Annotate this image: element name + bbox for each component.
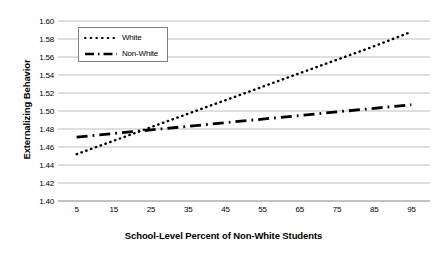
y-tick-label: 1.44 <box>24 161 54 170</box>
x-tick-label: 85 <box>362 205 386 214</box>
x-axis-title: School-Level Percent of Non-White Studen… <box>0 230 447 241</box>
x-tick-label: 35 <box>176 205 200 214</box>
y-tick-label: 1.60 <box>24 17 54 26</box>
legend-swatch-dotted-icon <box>84 33 118 43</box>
x-tick-label: 25 <box>139 205 163 214</box>
y-tick-label: 1.46 <box>24 143 54 152</box>
y-tick-label: 1.50 <box>24 107 54 116</box>
y-tick-label: 1.40 <box>24 197 54 206</box>
y-tick-label: 1.54 <box>24 71 54 80</box>
x-tick-label: 75 <box>325 205 349 214</box>
legend: White Non-White <box>78 27 168 62</box>
y-tick-label: 1.48 <box>24 125 54 134</box>
legend-item-non-white: Non-White <box>79 45 169 62</box>
legend-item-white: White <box>79 29 169 46</box>
x-tick-label: 95 <box>399 205 423 214</box>
legend-label-non-white: Non-White <box>122 49 158 58</box>
x-tick-label: 65 <box>288 205 312 214</box>
series-line-non-white <box>77 105 412 137</box>
y-tick-label: 1.42 <box>24 179 54 188</box>
y-axis-tick-labels: 1.401.421.441.461.481.501.521.541.561.58… <box>22 0 54 256</box>
x-tick-label: 5 <box>65 205 89 214</box>
legend-swatch-dash-dot-icon <box>84 49 118 59</box>
x-tick-label: 15 <box>102 205 126 214</box>
chart-container: Externalizing Behavior 1.401.421.441.461… <box>0 0 447 256</box>
x-tick-label: 45 <box>213 205 237 214</box>
y-tick-label: 1.56 <box>24 53 54 62</box>
plot-area <box>0 0 447 256</box>
x-tick-label: 55 <box>251 205 275 214</box>
legend-label-white: White <box>122 33 141 42</box>
y-tick-label: 1.52 <box>24 89 54 98</box>
y-tick-label: 1.58 <box>24 35 54 44</box>
